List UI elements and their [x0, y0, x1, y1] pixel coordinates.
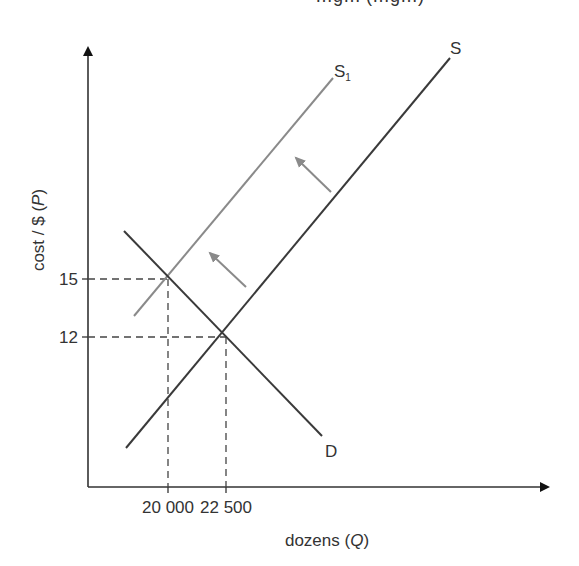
shift-arrow-icon [210, 253, 246, 287]
x-tick-label-20000: 20 000 [142, 498, 194, 517]
supply-curve-s1 [134, 78, 333, 316]
label-s1-main: S [334, 62, 345, 81]
demand-curve-d [124, 231, 322, 436]
y-axis-label: cost / $ (P) [29, 189, 48, 271]
label-s1-subscript: 1 [345, 72, 351, 83]
label-s: S [450, 39, 461, 58]
guide-lines [88, 279, 226, 487]
y-tick-label-15: 15 [59, 270, 78, 289]
shift-arrow-icon [296, 158, 331, 192]
x-axis-label-close: ) [363, 531, 369, 550]
supply-demand-chart: D S S1 15 12 20 000 22 500 dozens (Q) co… [0, 0, 579, 566]
x-axis-label-text: dozens ( [285, 531, 351, 550]
y-axis-label-close: ) [29, 189, 48, 195]
x-axis-label-variable: Q [350, 531, 363, 550]
label-s1: S1 [334, 62, 351, 83]
ticks [82, 279, 226, 493]
label-d: D [325, 442, 337, 461]
x-axis-label: dozens (Q) [285, 531, 369, 550]
y-axis-label-variable: P [29, 194, 48, 206]
axes [88, 48, 548, 487]
supply-curve-s [126, 58, 450, 448]
y-tick-label-12: 12 [59, 328, 78, 347]
x-tick-label-22500: 22 500 [200, 498, 252, 517]
y-axis-label-text: cost / $ ( [29, 206, 48, 272]
